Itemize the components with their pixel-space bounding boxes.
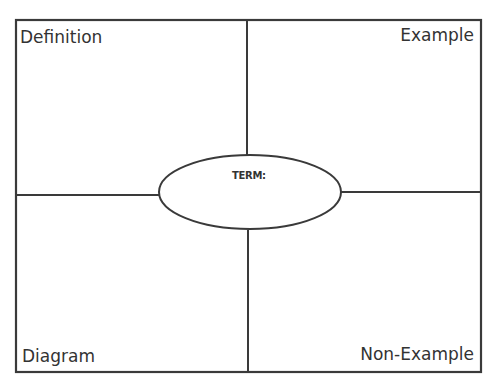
diagram-label: Diagram bbox=[22, 348, 95, 365]
term-label: TERM: bbox=[232, 170, 266, 181]
frayer-model-frame bbox=[0, 0, 496, 388]
term-oval bbox=[159, 155, 341, 229]
non-example-label: Non-Example bbox=[360, 346, 474, 363]
definition-label: Definition bbox=[20, 29, 102, 46]
example-label: Example bbox=[400, 27, 474, 44]
